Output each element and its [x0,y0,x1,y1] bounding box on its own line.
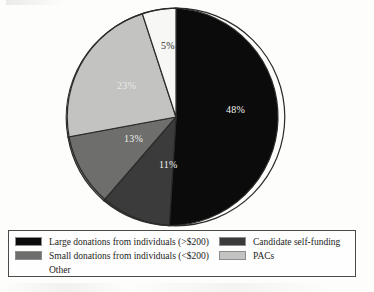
scan-artifact-bottom [0,283,374,292]
legend-column-left: Large donations from individuals (>$200)… [15,235,219,277]
pie-label-candidate-self-funding: 11% [159,159,178,170]
legend-swatch-large-donations [15,237,42,246]
legend-swatch-small-donations [15,251,42,260]
legend-label-pacs: PACs [253,250,274,262]
legend-item-small-donations[interactable]: Small donations from individuals (<$200) [15,249,219,262]
pie-slice-large-donations[interactable] [169,8,278,225]
pie-svg [62,6,290,228]
legend-label-candidate-self-funding: Candidate self-funding [253,236,340,248]
legend-column-right: Candidate self-funding PACs [219,235,353,263]
pie-label-small-donations: 13% [124,133,143,144]
legend-label-small-donations: Small donations from individuals (<$200) [49,250,209,262]
pie-label-other: 5% [161,40,175,51]
legend-label-large-donations: Large donations from individuals (>$200) [49,236,209,248]
pie-chart-figure: 48% 11% 13% 23% 5% Large donations from … [0,0,374,292]
legend-item-other[interactable]: Other [15,263,219,276]
legend-swatch-pacs [219,251,246,260]
pie-label-pacs: 23% [117,80,136,91]
legend-swatch-candidate-self-funding [219,237,246,246]
pie-label-large-donations: 48% [226,104,245,115]
legend-swatch-other [15,265,42,274]
legend-label-other: Other [49,264,71,276]
legend-item-large-donations[interactable]: Large donations from individuals (>$200) [15,235,219,248]
legend-item-pacs[interactable]: PACs [219,249,353,262]
pie-plot-area: 48% 11% 13% 23% 5% [0,0,374,228]
chart-legend: Large donations from individuals (>$200)… [8,230,356,277]
legend-item-candidate-self-funding[interactable]: Candidate self-funding [219,235,353,248]
